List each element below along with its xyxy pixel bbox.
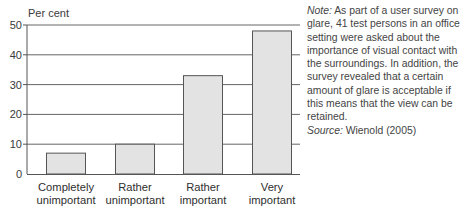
category-label: unimportant — [36, 194, 96, 206]
y-tick-label: 20 — [10, 108, 22, 120]
figure-note: Note: As part of a user survey on glare,… — [307, 4, 465, 137]
bar-chart: Per cent 01020304050 Completelyunimporta… — [0, 0, 300, 213]
category-label: Completely — [38, 181, 94, 193]
y-axis-ticks: 01020304050 — [10, 19, 27, 180]
category-label: Very — [261, 181, 284, 193]
x-axis-categories: CompletelyunimportantRatherunimportantRa… — [36, 181, 296, 206]
category-label: important — [180, 194, 228, 206]
source-text: Wienold (2005) — [343, 125, 416, 136]
y-tick-label: 0 — [16, 168, 22, 180]
category-label: Rather — [186, 181, 220, 193]
source-label: Source: — [307, 125, 343, 136]
bars — [47, 31, 292, 174]
y-axis-label: Per cent — [28, 7, 69, 19]
y-tick-label: 10 — [10, 138, 22, 150]
category-label: unimportant — [105, 194, 165, 206]
y-tick-label: 50 — [10, 19, 22, 31]
note-text: As part of a user survey on glare, 41 te… — [307, 5, 460, 122]
y-tick-label: 40 — [10, 49, 22, 61]
category-label: important — [249, 194, 297, 206]
bar-0 — [47, 153, 86, 174]
bar-3 — [253, 31, 292, 174]
y-tick-label: 30 — [10, 79, 22, 91]
category-label: Rather — [118, 181, 152, 193]
bar-1 — [116, 144, 155, 174]
note-label: Note: — [307, 5, 332, 16]
bar-2 — [184, 76, 223, 174]
